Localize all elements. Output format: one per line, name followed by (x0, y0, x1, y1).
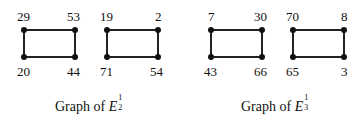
edge-top (292, 29, 344, 31)
label-top-left: 7 (208, 10, 215, 23)
caption-subscript: 2 (118, 103, 122, 112)
label-bottom-left: 43 (204, 65, 217, 78)
caption-graph-e2: Graph of E12 (55, 99, 123, 115)
edge-left (210, 29, 212, 56)
label-top-left: 29 (17, 10, 30, 23)
label-top-right: 53 (67, 10, 80, 23)
node-top-left (290, 27, 296, 33)
label-bottom-right: 44 (67, 65, 80, 78)
edge-bottom (23, 56, 75, 58)
edge-right (74, 29, 76, 57)
label-bottom-right: 66 (254, 65, 267, 78)
label-bottom-right: 3 (341, 65, 348, 78)
caption-superscript: 1 (304, 93, 308, 102)
node-top-right (341, 27, 347, 33)
node-bottom-left (21, 54, 27, 60)
label-top-left: 70 (286, 10, 299, 23)
caption-prefix: Graph of (241, 99, 295, 114)
label-bottom-left: 20 (17, 65, 30, 78)
edge-top (106, 29, 158, 31)
label-bottom-left: 71 (100, 65, 113, 78)
label-bottom-right: 54 (150, 65, 163, 78)
edge-top (23, 29, 75, 31)
edge-bottom (210, 56, 262, 58)
node-bottom-right (72, 54, 78, 60)
node-top-right (259, 27, 265, 33)
node-bottom-right (155, 54, 161, 60)
label-bottom-left: 65 (286, 65, 299, 78)
node-bottom-left (208, 54, 214, 60)
node-bottom-right (259, 54, 265, 60)
node-top-right (72, 27, 78, 33)
edge-top (210, 29, 262, 31)
edge-left (292, 29, 294, 56)
label-top-right: 30 (254, 10, 267, 23)
label-top-right: 2 (155, 10, 162, 23)
label-top-right: 8 (341, 10, 348, 23)
label-top-left: 19 (100, 10, 113, 23)
caption-prefix: Graph of (55, 99, 109, 114)
node-bottom-left (290, 54, 296, 60)
edge-left (106, 29, 108, 56)
caption-superscript: 1 (118, 93, 122, 102)
edge-right (343, 29, 345, 57)
node-top-left (208, 27, 214, 33)
caption-graph-e3: Graph of E13 (241, 99, 309, 115)
edge-bottom (106, 56, 158, 58)
caption-symbol: E (109, 99, 118, 114)
edge-left (23, 29, 25, 56)
node-top-left (104, 27, 110, 33)
node-top-left (21, 27, 27, 33)
edge-right (157, 29, 159, 57)
node-top-right (155, 27, 161, 33)
node-bottom-right (341, 54, 347, 60)
node-bottom-left (104, 54, 110, 60)
caption-symbol: E (295, 99, 304, 114)
edge-right (261, 29, 263, 57)
edge-bottom (292, 56, 344, 58)
caption-subscript: 3 (304, 103, 308, 112)
